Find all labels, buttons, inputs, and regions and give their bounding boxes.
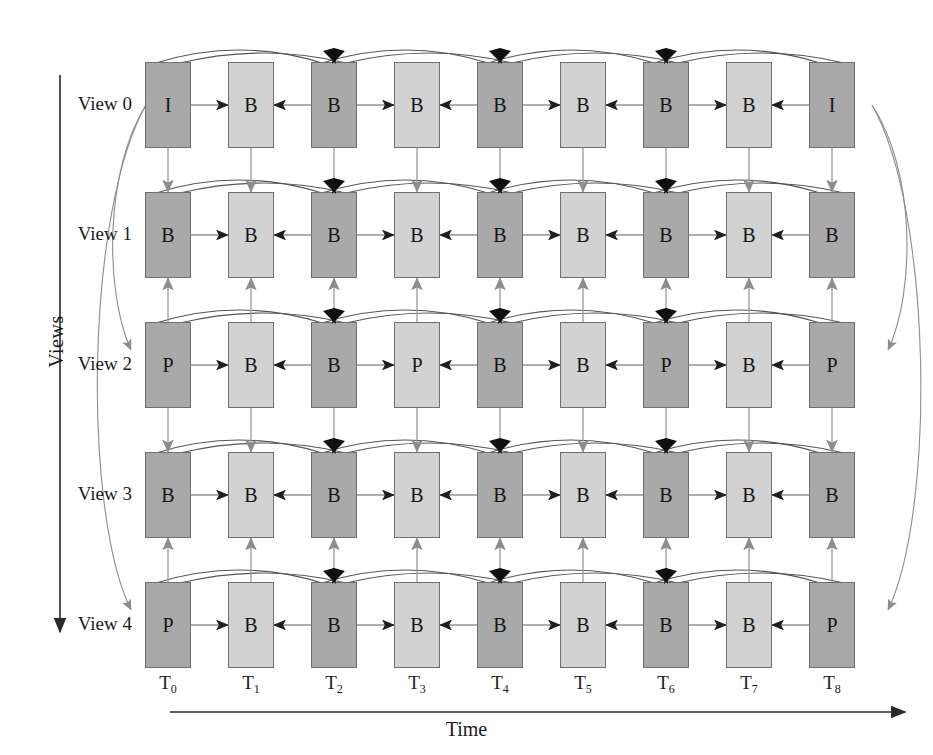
time-label-subscript: 3	[420, 682, 426, 696]
arrowhead-overlay-layer	[0, 0, 933, 755]
frame-type-label: B	[327, 485, 340, 505]
frame-v3-t3[interactable]: B	[394, 452, 440, 538]
frame-v1-t3[interactable]: B	[394, 192, 440, 278]
frame-v1-t0[interactable]: B	[145, 192, 191, 278]
prediction-arcs-layer	[0, 0, 933, 755]
time-label-base: T	[657, 672, 669, 693]
frame-v0-t2[interactable]: B	[311, 62, 357, 148]
frame-type-label: B	[825, 485, 838, 505]
time-label-subscript: 8	[835, 682, 841, 696]
frame-type-label: B	[410, 95, 423, 115]
frame-v4-t3[interactable]: B	[394, 582, 440, 668]
frame-v3-t2[interactable]: B	[311, 452, 357, 538]
frame-type-label: I	[829, 95, 836, 115]
frame-type-label: B	[659, 95, 672, 115]
frame-type-label: B	[576, 355, 589, 375]
frame-v2-t0[interactable]: P	[145, 322, 191, 408]
frame-v0-t3[interactable]: B	[394, 62, 440, 148]
time-label-1: T1	[216, 672, 286, 694]
frame-type-label: B	[742, 95, 755, 115]
frame-v2-t1[interactable]: B	[228, 322, 274, 408]
time-label-base: T	[823, 672, 835, 693]
frame-v2-t8[interactable]: P	[809, 322, 855, 408]
frame-type-label: B	[742, 615, 755, 635]
frame-type-label: B	[244, 485, 257, 505]
frame-type-label: B	[659, 485, 672, 505]
frame-v3-t7[interactable]: B	[726, 452, 772, 538]
view-label-3: View 3	[40, 483, 132, 505]
time-label-5: T5	[548, 672, 618, 694]
frame-v3-t0[interactable]: B	[145, 452, 191, 538]
frame-type-label: B	[327, 615, 340, 635]
time-label-base: T	[574, 672, 586, 693]
time-label-2: T2	[299, 672, 369, 694]
frame-v4-t2[interactable]: B	[311, 582, 357, 668]
frame-v0-t7[interactable]: B	[726, 62, 772, 148]
frame-v3-t1[interactable]: B	[228, 452, 274, 538]
frame-v0-t5[interactable]: B	[560, 62, 606, 148]
frame-v4-t8[interactable]: P	[809, 582, 855, 668]
frame-v1-t5[interactable]: B	[560, 192, 606, 278]
frame-v4-t4[interactable]: B	[477, 582, 523, 668]
frame-type-label: B	[493, 355, 506, 375]
frame-v0-t4[interactable]: B	[477, 62, 523, 148]
frame-v1-t1[interactable]: B	[228, 192, 274, 278]
diagram-canvas: IBBBBBBBIBBBBBBBBBPBBPBBPBPBBBBBBBBBPBBB…	[0, 0, 933, 755]
frame-type-label: P	[660, 355, 671, 375]
frame-type-label: B	[244, 355, 257, 375]
time-label-base: T	[408, 672, 420, 693]
frame-type-label: B	[161, 485, 174, 505]
frame-v4-t5[interactable]: B	[560, 582, 606, 668]
time-label-subscript: 1	[254, 682, 260, 696]
frame-v2-t4[interactable]: B	[477, 322, 523, 408]
time-label-3: T3	[382, 672, 452, 694]
view-label-4: View 4	[40, 613, 132, 635]
frame-type-label: B	[659, 225, 672, 245]
frame-v0-t8[interactable]: I	[809, 62, 855, 148]
frame-v1-t2[interactable]: B	[311, 192, 357, 278]
frame-v4-t1[interactable]: B	[228, 582, 274, 668]
frame-v2-t6[interactable]: P	[643, 322, 689, 408]
frame-v2-t3[interactable]: P	[394, 322, 440, 408]
frame-v3-t4[interactable]: B	[477, 452, 523, 538]
frame-type-label: B	[825, 225, 838, 245]
time-label-7: T7	[714, 672, 784, 694]
time-label-base: T	[242, 672, 254, 693]
frame-v4-t7[interactable]: B	[726, 582, 772, 668]
view-label-1: View 1	[40, 223, 132, 245]
frame-v4-t0[interactable]: P	[145, 582, 191, 668]
frame-v2-t2[interactable]: B	[311, 322, 357, 408]
time-label-base: T	[491, 672, 503, 693]
frame-type-label: B	[742, 225, 755, 245]
frame-v3-t8[interactable]: B	[809, 452, 855, 538]
frame-v0-t1[interactable]: B	[228, 62, 274, 148]
frame-type-label: P	[826, 615, 837, 635]
frame-v1-t8[interactable]: B	[809, 192, 855, 278]
time-label-subscript: 7	[752, 682, 758, 696]
outer-arc-right	[872, 105, 921, 610]
time-label-base: T	[159, 672, 171, 693]
frame-type-label: B	[410, 225, 423, 245]
frame-type-label: B	[493, 615, 506, 635]
frame-v3-t6[interactable]: B	[643, 452, 689, 538]
frame-v1-t7[interactable]: B	[726, 192, 772, 278]
frame-v0-t0[interactable]: I	[145, 62, 191, 148]
frame-v4-t6[interactable]: B	[643, 582, 689, 668]
frame-v1-t6[interactable]: B	[643, 192, 689, 278]
frame-v2-t5[interactable]: B	[560, 322, 606, 408]
frame-type-label: B	[161, 225, 174, 245]
frame-v3-t5[interactable]: B	[560, 452, 606, 538]
frame-v0-t6[interactable]: B	[643, 62, 689, 148]
frame-type-label: B	[576, 225, 589, 245]
time-label-base: T	[325, 672, 337, 693]
frame-type-label: B	[742, 355, 755, 375]
time-label-subscript: 5	[586, 682, 592, 696]
frame-v2-t7[interactable]: B	[726, 322, 772, 408]
frame-type-label: B	[244, 615, 257, 635]
frame-type-label: B	[327, 95, 340, 115]
time-label-base: T	[740, 672, 752, 693]
time-label-subscript: 0	[171, 682, 177, 696]
frame-type-label: P	[162, 615, 173, 635]
frame-v1-t4[interactable]: B	[477, 192, 523, 278]
time-label-subscript: 6	[669, 682, 675, 696]
